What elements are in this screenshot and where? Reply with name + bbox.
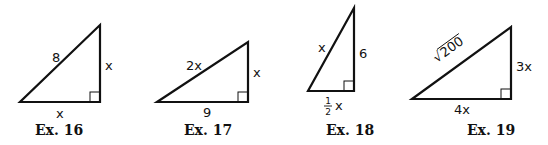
vertical-leg-label: x [105, 58, 113, 73]
hypotenuse-label: √ 200 [430, 33, 467, 66]
horizontal-leg-label: 9 [203, 105, 211, 120]
fraction-numerator: 1 [325, 96, 331, 106]
figure-ex-17: 2x x 9 Ex. 17 [157, 42, 261, 138]
right-angle-marker [90, 92, 100, 102]
figure-caption: Ex. 19 [467, 122, 515, 138]
figure-ex-18: x 6 1 2 x Ex. 18 [308, 8, 374, 138]
figure-ex-16: 8 x x Ex. 16 [20, 25, 113, 138]
horizontal-leg-label: 1 2 x [324, 96, 343, 117]
figure-ex-19: √ 200 3x 4x Ex. 19 [412, 27, 532, 138]
fraction-denominator: 2 [325, 107, 331, 117]
right-angle-marker [501, 89, 511, 99]
figure-caption: Ex. 17 [184, 122, 232, 138]
vertical-leg-label: 3x [516, 59, 532, 74]
triangle-exercises-diagram: 8 x x Ex. 16 2x x 9 Ex. 17 x 6 1 2 x Ex.… [0, 0, 548, 145]
vertical-leg-label: x [253, 65, 261, 80]
figure-caption: Ex. 16 [35, 122, 83, 138]
right-angle-marker [344, 81, 354, 91]
hypotenuse-label: x [318, 40, 326, 55]
horizontal-leg-label: x [56, 106, 64, 121]
horizontal-leg-label: 4x [454, 102, 470, 117]
hypotenuse-label: 8 [52, 50, 60, 65]
vertical-leg-label: 6 [359, 46, 367, 61]
fraction-variable: x [335, 98, 343, 113]
right-triangle [412, 27, 511, 99]
hypotenuse-label: 2x [186, 58, 202, 73]
right-triangle [308, 8, 354, 91]
right-angle-marker [238, 92, 248, 102]
figure-caption: Ex. 18 [326, 122, 374, 138]
right-triangle [157, 42, 248, 102]
